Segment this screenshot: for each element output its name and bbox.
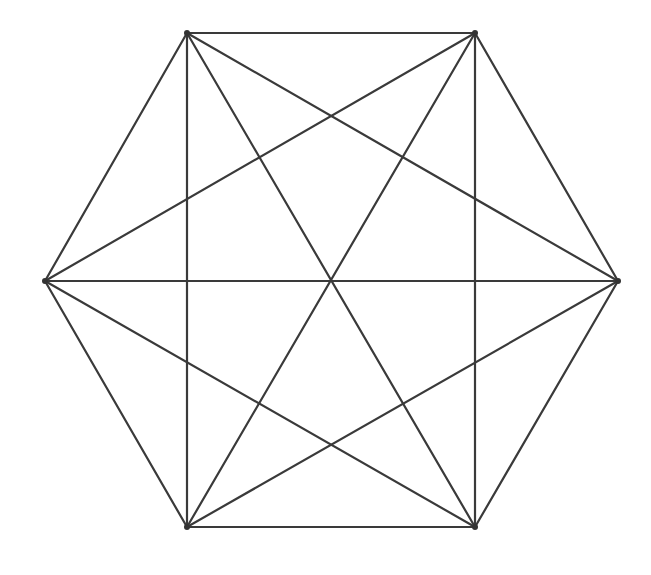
edge-r-bl bbox=[187, 281, 618, 527]
edge-br-l bbox=[45, 281, 475, 527]
edge-tr-r bbox=[475, 33, 618, 281]
vertex-bl bbox=[184, 524, 190, 530]
edge-bl-l bbox=[45, 281, 187, 527]
edges-group bbox=[45, 33, 618, 527]
edge-r-br bbox=[475, 281, 618, 527]
vertex-tl bbox=[184, 30, 190, 36]
vertex-r bbox=[615, 278, 621, 284]
vertex-tr bbox=[472, 30, 478, 36]
hexagon-complete-graph-diagram bbox=[0, 0, 651, 575]
vertex-l bbox=[42, 278, 48, 284]
edge-tr-l bbox=[45, 33, 475, 281]
vertex-br bbox=[472, 524, 478, 530]
edge-l-tl bbox=[45, 33, 187, 281]
